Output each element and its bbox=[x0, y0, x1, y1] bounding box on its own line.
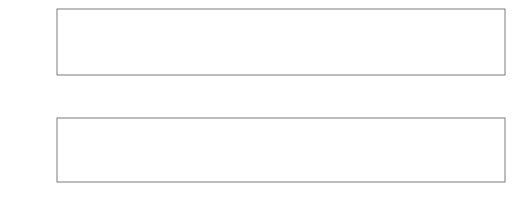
figure-svg bbox=[0, 0, 521, 222]
bottom-panel bbox=[57, 118, 505, 182]
top-panel bbox=[57, 9, 505, 75]
top-panel-axes-box bbox=[57, 9, 505, 75]
figure-canvas bbox=[0, 0, 521, 222]
bottom-panel-axes-box bbox=[57, 118, 505, 182]
